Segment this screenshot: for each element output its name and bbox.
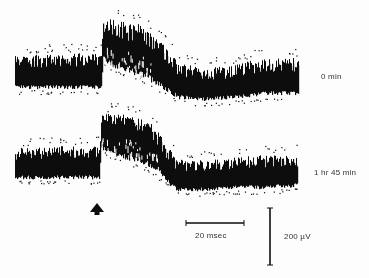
voltage-scale-label: 200 µV xyxy=(284,232,311,241)
annotations-layer xyxy=(0,0,369,278)
stimulus-arrow-icon xyxy=(90,203,104,215)
time-scale-bar xyxy=(186,220,244,226)
voltage-scale-bar xyxy=(267,208,273,265)
time-scale-label: 20 msec xyxy=(195,231,227,240)
